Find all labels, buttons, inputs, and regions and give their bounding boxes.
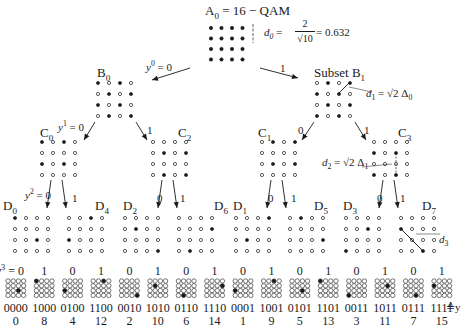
leaf-3-point-empty [107,279,111,283]
branch-c2-one-label: 1 [180,193,186,204]
d7-constellation-point-empty [410,227,413,230]
c0-constellation-point-filled [40,140,43,143]
leaf-8-point-empty [243,279,247,283]
leaf-11-point-empty [329,279,333,283]
d4-constellation-point-empty [78,238,81,241]
leaf-13-point-filled [386,284,390,288]
leaf-2-point-empty [78,288,82,292]
d1-constellation-point-empty [256,227,259,230]
branch-c0-one-label: 1 [72,193,78,204]
c1-constellation-point-empty [282,151,285,154]
leaf-14-point-empty [409,293,413,297]
leaf-2-point-empty [78,279,82,283]
b0-constellation-point-filled [118,103,121,106]
c3-constellation-point-empty [383,140,386,143]
c3-constellation-point-empty [372,162,375,165]
b0-constellation-point-empty [118,92,121,95]
leaf-15-point-empty [442,293,446,297]
b1-constellation-point-empty [326,92,329,95]
leaf-4-point-empty [119,288,123,292]
leaf-9-point-empty [277,293,281,297]
leaf-8-point-empty [233,279,237,283]
leaf-4-point-empty [130,288,134,292]
leaf-6-point-empty [187,293,191,297]
leaf-decimal-index: 15 [424,315,460,327]
leaf-9-point-empty [267,279,271,283]
d1-constellation-point-empty [256,238,259,241]
d0-constellation-point-filled [13,216,16,219]
d5-constellation-point-empty [299,238,302,241]
b0-constellation-point-filled [96,81,99,84]
d3-constellation-point-empty [344,238,347,241]
leaf-13-point-empty [375,284,379,288]
d7-constellation-point-empty [421,238,424,241]
c2-constellation-point-empty [151,151,154,154]
b1-constellation-point-empty [348,92,351,95]
leaf-3-point-empty [107,284,111,288]
c1-constellation-point-empty [271,173,274,176]
a0-constellation-point-filled [220,26,223,29]
leaf-bit-label: 1 [424,265,460,277]
leaf-11-point-empty [329,284,333,288]
leaf-11-point-empty [323,279,327,283]
leaf-6-point-empty [192,284,196,288]
leaf-3-point-empty [91,293,95,297]
leaf-10-point-filled [300,289,304,293]
d2-constellation-point-empty [156,216,159,219]
d2-constellation-point-empty [134,216,137,219]
d1-constellation-point-empty [267,227,270,230]
leaf-13-point-empty [375,279,379,283]
a0-constellation-point-filled [241,47,244,50]
leaf-12-point-filled [347,293,351,297]
leaf-6-point-empty [187,288,191,292]
leaf-8-point-empty [243,288,247,292]
d1-constellation-point-empty [234,238,237,241]
leaf-14-point-empty [414,288,418,292]
a0-constellation-point-filled [220,58,223,61]
leaf-8-point-empty [238,288,242,292]
d0-constellation-point-empty [46,227,49,230]
d6-constellation-point-empty [177,216,180,219]
d6-constellation-point-empty [210,249,213,252]
leaf-6-point-empty [176,279,180,283]
a0-constellation-point-filled [220,37,223,40]
leaf-11-point-empty [318,288,322,292]
leaf-1-point-empty [45,288,49,292]
leaf-7-point-empty [215,284,219,288]
c0-constellation-point-empty [51,151,54,154]
leaf-7-point-empty [215,288,219,292]
leaf-9-point-empty [267,293,271,297]
leaf-6-point-empty [176,293,180,297]
leaf-5-point-empty [158,293,162,297]
arrow-c3-right-head [395,202,400,208]
subset-c0-label: C0 [40,126,53,139]
leaf-12-point-empty [362,293,366,297]
d3-constellation-point-empty [377,216,380,219]
d2-constellation-point-filled [134,227,137,230]
d0-constellation-point-empty [35,249,38,252]
leaf-7-point-empty [215,279,219,283]
d1-constellation-point-empty [256,216,259,219]
leaf-2-point-empty [68,284,72,288]
leaf-3-point-empty [101,284,105,288]
d2-constellation-point-filled [156,249,159,252]
leaf-12-point-empty [362,284,366,288]
d5-constellation-point-empty [288,249,291,252]
leaf-10-point-empty [300,279,304,283]
b0-constellation-point-empty [118,114,121,117]
d2-constellation-point-empty [145,238,148,241]
c0-constellation-point-filled [62,140,65,143]
arrow-c0-left-head [45,202,50,208]
leaf-2-point-empty [73,293,77,297]
leaf-0-point-empty [16,284,20,288]
leaf-1-point-empty [45,279,49,283]
arrow-b0-c0-head [84,134,89,140]
c1-constellation-point-empty [293,173,296,176]
d5-constellation-point-empty [321,227,324,230]
c1-constellation-point-empty [282,140,285,143]
d4-constellation-point-empty [78,227,81,230]
c2-constellation-point-empty [173,140,176,143]
d5-constellation-point-empty [310,249,313,252]
leaf-0-point-empty [21,293,25,297]
d6-constellation-point-empty [199,227,202,230]
